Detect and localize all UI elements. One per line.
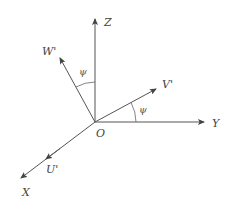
label-x: X bbox=[21, 186, 31, 199]
label-y: Y bbox=[212, 117, 221, 130]
angle-arc-z-w bbox=[76, 82, 95, 87]
u-prime-axis bbox=[46, 149, 60, 160]
label-v-prime: V' bbox=[162, 78, 173, 91]
v-prime-axis bbox=[95, 89, 156, 122]
coordinate-frame-diagram: Z Y X W' V' U' O ψ ψ bbox=[0, 0, 230, 207]
label-u-prime: U' bbox=[46, 163, 58, 176]
label-origin: O bbox=[96, 127, 105, 140]
w-prime-axis bbox=[60, 58, 95, 122]
label-w-prime: W' bbox=[42, 45, 56, 58]
label-psi-z-w: ψ bbox=[79, 66, 87, 77]
angle-arc-v-y bbox=[131, 103, 136, 123]
label-z: Z bbox=[103, 16, 112, 29]
label-psi-v-y: ψ bbox=[139, 104, 147, 115]
